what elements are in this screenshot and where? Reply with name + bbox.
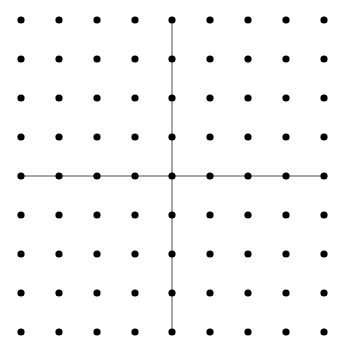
grid-dot: [244, 172, 251, 179]
grid-dot: [168, 211, 175, 218]
grid-dot: [93, 328, 100, 335]
grid-dot: [282, 172, 289, 179]
grid-dot: [168, 133, 175, 140]
grid-dot: [17, 289, 24, 296]
grid-dot: [131, 94, 138, 101]
grid-dot: [206, 172, 213, 179]
grid-dot: [17, 133, 24, 140]
grid-dot: [93, 55, 100, 62]
dot-grid-diagram: [0, 0, 346, 354]
grid-dot: [131, 328, 138, 335]
grid-dot: [206, 133, 213, 140]
grid-dot: [93, 133, 100, 140]
grid-dot: [93, 289, 100, 296]
grid-dot: [17, 250, 24, 257]
grid-dot: [17, 328, 24, 335]
grid-dot: [244, 94, 251, 101]
grid-dot: [131, 55, 138, 62]
grid-dot: [244, 16, 251, 23]
grid-dot: [282, 211, 289, 218]
grid-dot: [93, 16, 100, 23]
grid-dot: [282, 16, 289, 23]
grid-dot: [282, 133, 289, 140]
grid-dot: [320, 133, 327, 140]
grid-dot: [168, 16, 175, 23]
grid-dot: [168, 172, 175, 179]
grid-dot: [93, 172, 100, 179]
grid-dot: [168, 55, 175, 62]
grid-dot: [55, 172, 62, 179]
grid-dot: [17, 94, 24, 101]
grid-dot: [131, 250, 138, 257]
grid-dot: [320, 16, 327, 23]
grid-dot: [244, 133, 251, 140]
grid-dot: [93, 94, 100, 101]
grid-dot: [93, 250, 100, 257]
grid-dot: [206, 289, 213, 296]
grid-dot: [131, 172, 138, 179]
grid-dot: [206, 211, 213, 218]
grid-dot: [206, 55, 213, 62]
grid-dot: [320, 211, 327, 218]
grid-dot: [282, 55, 289, 62]
grid-dot: [282, 328, 289, 335]
grid-dot: [131, 289, 138, 296]
grid-dot: [55, 55, 62, 62]
grid-dot: [17, 211, 24, 218]
grid-dot: [320, 55, 327, 62]
grid-dot: [55, 250, 62, 257]
grid-dot: [282, 250, 289, 257]
grid-dot: [320, 94, 327, 101]
grid-dot: [55, 289, 62, 296]
grid-dot: [131, 211, 138, 218]
grid-dot: [131, 16, 138, 23]
grid-dot: [168, 94, 175, 101]
grid-dot: [244, 328, 251, 335]
grid-dot: [17, 55, 24, 62]
grid-dot: [168, 250, 175, 257]
grid-dot: [282, 94, 289, 101]
grid-dot: [131, 133, 138, 140]
grid-dot: [17, 16, 24, 23]
grid-dot: [17, 172, 24, 179]
grid-dot: [320, 328, 327, 335]
grid-dot: [55, 94, 62, 101]
grid-dot: [55, 16, 62, 23]
grid-dot: [320, 250, 327, 257]
grid-dot: [206, 16, 213, 23]
grid-dot: [55, 328, 62, 335]
grid-dot: [206, 328, 213, 335]
grid-dot: [244, 289, 251, 296]
grid-dot: [168, 289, 175, 296]
grid-dot: [244, 211, 251, 218]
grid-dot: [93, 211, 100, 218]
grid-dot: [244, 250, 251, 257]
grid-dot: [244, 55, 251, 62]
grid-dot: [168, 328, 175, 335]
grid-dot: [55, 211, 62, 218]
grid-dot: [55, 133, 62, 140]
grid-dot: [282, 289, 289, 296]
grid-dot: [320, 172, 327, 179]
grid-dot: [206, 250, 213, 257]
grid-dot: [320, 289, 327, 296]
grid-dot: [206, 94, 213, 101]
